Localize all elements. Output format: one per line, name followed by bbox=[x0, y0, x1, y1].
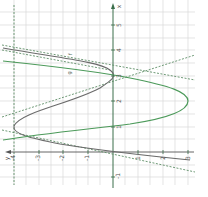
y-tick-neg1: -1 bbox=[84, 155, 90, 161]
y-tick-neg3: -3 bbox=[35, 155, 41, 161]
curve-g bbox=[3, 61, 188, 140]
x-axis-label: x bbox=[115, 5, 122, 9]
x-tick-5: 5 bbox=[116, 23, 122, 27]
x-tick-1: 1 bbox=[116, 125, 122, 129]
x-tick-4: 4 bbox=[116, 48, 122, 52]
y-tick-neg4: -4 bbox=[10, 155, 16, 161]
curve-f-label: f bbox=[67, 53, 73, 55]
x-tick-2: 2 bbox=[116, 99, 122, 103]
curve-f bbox=[3, 48, 190, 160]
y-tick-neg2: -2 bbox=[59, 155, 65, 161]
y-tick-3: 3 bbox=[185, 156, 191, 160]
rotated-function-plot bbox=[0, 0, 208, 197]
x-tick-3: 3 bbox=[116, 74, 122, 78]
y-axis-arrow-icon bbox=[5, 150, 11, 154]
y-tick-2: 2 bbox=[160, 156, 166, 160]
curve-g-label: g bbox=[66, 71, 72, 74]
y-tick-1: 1 bbox=[135, 156, 141, 160]
x-tick-neg1: -1 bbox=[115, 173, 121, 179]
